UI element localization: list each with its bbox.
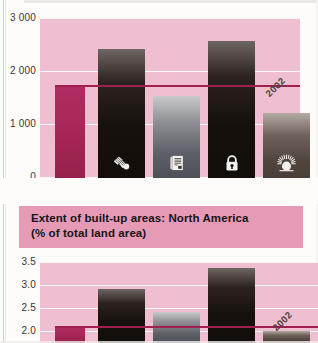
gridline-3000 <box>40 18 300 19</box>
bottom-ytick-label-3-0: 3.0 <box>0 279 36 290</box>
scan-edge-top <box>24 0 318 3</box>
gridline-3-0 <box>40 285 318 286</box>
banner-title-line-2: (% of total land area) <box>31 226 303 241</box>
bottom-ytick-label-2-5: 2.5 <box>0 302 36 313</box>
reference-line-2002 <box>55 85 300 87</box>
sun-icon <box>276 152 298 174</box>
scanned-report-page: 3 000 2 000 1 000 0 2002 Extent of built… <box>0 0 318 343</box>
bar-1[interactable] <box>55 85 85 178</box>
section-title-banner: Extent of built-up areas: North America … <box>19 206 303 248</box>
bottom-bar-2[interactable] <box>98 289 145 343</box>
ytick-label-3000: 3 000 <box>0 12 36 23</box>
padlock-icon <box>221 152 243 174</box>
top-chart-plot-area <box>40 18 300 178</box>
chart-separator <box>0 178 318 204</box>
banner-title-line-1: Extent of built-up areas: North America <box>31 206 303 226</box>
ytick-label-1000: 1 000 <box>0 118 36 129</box>
gridline-2000 <box>40 71 300 72</box>
bar-4[interactable] <box>208 41 255 178</box>
bar-3[interactable] <box>153 96 200 178</box>
ytick-label-2000: 2 000 <box>0 65 36 76</box>
satellite-icon <box>111 152 133 174</box>
bottom-ytick-label-3-5: 3.5 <box>0 256 36 267</box>
bar-5[interactable] <box>263 113 310 178</box>
bar-2[interactable] <box>98 49 145 178</box>
bottom-bar-4[interactable] <box>208 268 255 343</box>
gridline-3-5 <box>40 262 318 263</box>
bottom-ytick-label-2-0: 2.0 <box>0 325 36 336</box>
bottom-bar-3[interactable] <box>153 312 200 343</box>
gridline-2-5 <box>40 308 318 309</box>
document-icon <box>166 152 188 174</box>
